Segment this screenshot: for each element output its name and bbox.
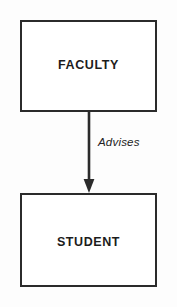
arrow-head-icon: [84, 179, 95, 193]
entity-box-faculty[interactable]: FACULTY: [20, 20, 157, 112]
entity-label-faculty: FACULTY: [58, 59, 119, 72]
entity-label-container-faculty: FACULTY: [22, 59, 155, 72]
relationship-label-advises: Advises: [98, 137, 140, 149]
er-diagram-canvas: FACULTY Advises STUDENT: [0, 0, 177, 307]
entity-box-student[interactable]: STUDENT: [20, 193, 157, 287]
entity-label-student: STUDENT: [57, 236, 120, 249]
entity-label-container-student: STUDENT: [22, 236, 155, 249]
